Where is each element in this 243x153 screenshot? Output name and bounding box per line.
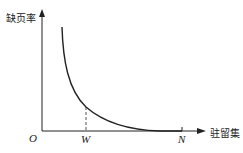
x-axis-arrow-icon xyxy=(197,128,206,134)
page-fault-curve xyxy=(62,27,182,131)
w-tick-label: W xyxy=(81,133,90,145)
n-tick-label: N xyxy=(178,133,185,145)
y-axis-arrow-icon xyxy=(39,9,45,17)
x-axis-label: 驻留集 xyxy=(210,125,240,140)
origin-label: O xyxy=(29,132,37,144)
diagram-canvas xyxy=(0,0,243,153)
y-axis-label: 缺页率 xyxy=(6,10,36,25)
